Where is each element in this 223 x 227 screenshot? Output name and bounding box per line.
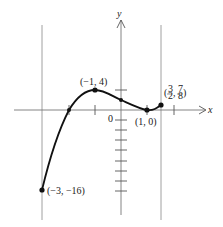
max-point-label: (−1, 4) <box>80 76 107 88</box>
point-end <box>158 102 163 107</box>
origin-label: 0 <box>108 113 113 124</box>
end-point-label: ( 3 2 , 7 8 ) <box>164 83 186 101</box>
point-max <box>92 87 97 92</box>
function-curve <box>42 90 161 190</box>
svg-text:,: , <box>173 87 176 98</box>
point-y-intercept <box>119 98 123 102</box>
svg-text:): ) <box>183 87 186 99</box>
y-axis-label: y <box>116 8 122 19</box>
function-graph: y x 0 (−1, 4) (1, 0) (−3, −16) ( 3 2 , 7… <box>0 0 223 227</box>
root-point-label: (1, 0) <box>135 116 157 128</box>
point-root-neg2 <box>67 108 71 112</box>
x-axis-label: x <box>207 104 213 115</box>
min-point-label: (−3, −16) <box>47 185 85 197</box>
point-root-1 <box>144 107 149 112</box>
point-min <box>39 187 44 192</box>
